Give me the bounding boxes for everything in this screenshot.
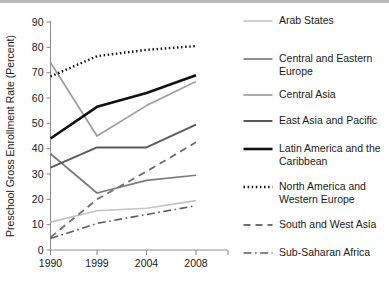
legend-item-label: North America and Western Europe [279,180,366,205]
series-line [51,142,197,237]
x-tick-label: 2004 [135,257,159,269]
plot-area: 0102030405060708090 1990199920042008 Pre… [0,0,240,281]
legend-item-label: Central and Eastern Europe [279,52,372,77]
series-line [51,206,197,239]
line-chart-svg: 0102030405060708090 1990199920042008 Pre… [0,0,240,281]
y-axis-title-text: Preschool Gross Enrollment Rate (Percent… [4,35,16,237]
legend-item-label: South and West Asia [279,218,376,231]
legend-line-swatch-icon [243,222,273,234]
legend-line-swatch-icon [243,56,273,68]
y-tick-label: 0 [38,244,44,256]
legend-item[interactable]: Central and Eastern Europe [243,52,372,77]
series-lines [51,46,197,239]
y-tick-label: 50 [32,117,44,129]
legend-item-label: Sub-Saharan Africa [279,246,370,259]
legend-line-swatch-icon [243,184,273,196]
x-tick-label: 1990 [39,257,63,269]
legend-item[interactable]: Latin America and the Caribbean [243,142,381,167]
legend-item-label: Central Asia [279,88,336,101]
series-line [51,46,197,76]
series-line [51,75,197,138]
legend-item[interactable]: Arab States [243,14,334,30]
series-line [51,154,197,193]
y-axis-title: Preschool Gross Enrollment Rate (Percent… [4,35,16,237]
x-tick-label: 1999 [85,257,109,269]
legend-item-label: East Asia and Pacific [279,114,377,127]
y-tick-label: 10 [32,218,44,230]
legend-item[interactable]: North America and Western Europe [243,180,366,205]
legend-line-swatch-icon [243,250,273,262]
legend: Arab StatesCentral and Eastern EuropeCen… [243,14,389,274]
legend-item[interactable]: Sub-Saharan Africa [243,246,370,262]
x-axis: 1990199920042008 [39,250,228,269]
y-tick-label: 80 [32,41,44,53]
legend-line-swatch-icon [243,92,273,104]
y-tick-label: 90 [32,16,44,28]
legend-line-swatch-icon [243,18,273,30]
legend-item-label: Latin America and the Caribbean [279,142,381,167]
chart-figure: 0102030405060708090 1990199920042008 Pre… [0,0,389,281]
y-tick-label: 40 [32,142,44,154]
x-tick-label: 2008 [184,257,208,269]
y-tick-label: 20 [32,193,44,205]
legend-item[interactable]: East Asia and Pacific [243,114,377,130]
legend-item[interactable]: South and West Asia [243,218,376,234]
series-line [51,125,197,168]
legend-item[interactable]: Central Asia [243,88,336,104]
legend-item-label: Arab States [279,14,334,27]
y-tick-label: 70 [32,66,44,78]
y-axis: 0102030405060708090 [32,16,51,256]
y-tick-label: 60 [32,92,44,104]
legend-line-swatch-icon [243,118,273,130]
y-tick-label: 30 [32,168,44,180]
legend-line-swatch-icon [243,146,273,158]
